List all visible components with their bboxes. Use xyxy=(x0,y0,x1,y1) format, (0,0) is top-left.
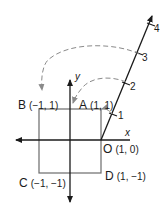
point-label-a: A (1, 1) xyxy=(79,99,113,111)
point-label-d: D (1, −1) xyxy=(105,170,146,182)
point-a-coords: (1, 1) xyxy=(90,100,113,111)
point-label-b: B (−1, 1) xyxy=(18,99,58,111)
point-c-coords: (−1, −1) xyxy=(31,178,66,189)
ray-tick-1: 1 xyxy=(118,111,124,121)
point-label-o: O (1, 0) xyxy=(103,143,139,155)
point-o-letter: O xyxy=(103,142,112,156)
point-b-coords: (−1, 1) xyxy=(29,100,58,111)
ray-tick-3: 3 xyxy=(142,53,148,63)
point-o-coords: (1, 0) xyxy=(115,144,138,155)
point-d-letter: D xyxy=(105,169,114,183)
point-b-letter: B xyxy=(18,98,26,112)
y-axis-label: y xyxy=(75,72,80,82)
point-label-c: C (−1, −1) xyxy=(19,177,66,189)
x-axis-label: x xyxy=(125,128,130,138)
point-a-letter: A xyxy=(79,98,87,112)
ray-tick-2: 2 xyxy=(130,82,136,92)
point-d-coords: (1, −1) xyxy=(117,171,146,182)
ray-ticks xyxy=(109,23,155,116)
ray-tick-4: 4 xyxy=(154,24,160,34)
point-c-letter: C xyxy=(19,176,28,190)
